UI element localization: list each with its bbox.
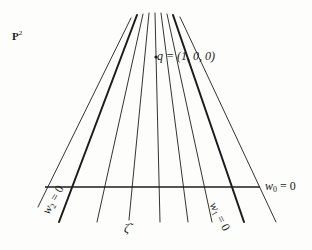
fan-line-w2 — [59, 15, 137, 222]
space-exponent: 2 — [19, 29, 23, 37]
fan-line-line-7 — [167, 14, 212, 222]
w0-equation: = 0 — [277, 179, 296, 193]
line-w0-label: w0 = 0 — [265, 180, 296, 194]
line-zeta-label: ζ̃ — [124, 222, 129, 234]
w0-symbol: w — [265, 179, 273, 193]
diagram-canvas: P2 q = (1, 0, 0) w0 = 0 w2 = 0 w1 = 0 ζ̃ — [0, 0, 312, 250]
fan-line-line-3 — [97, 14, 143, 222]
fan-line-line-5 — [155, 13, 160, 222]
point-q-label: q = (1, 0, 0) — [157, 50, 215, 62]
projective-plane-label: P2 — [12, 30, 22, 42]
fan-line-right-thin — [180, 17, 276, 222]
space-symbol: P — [12, 30, 19, 42]
fan-line-left-thin — [38, 18, 131, 207]
fan-line-zeta — [129, 13, 149, 220]
